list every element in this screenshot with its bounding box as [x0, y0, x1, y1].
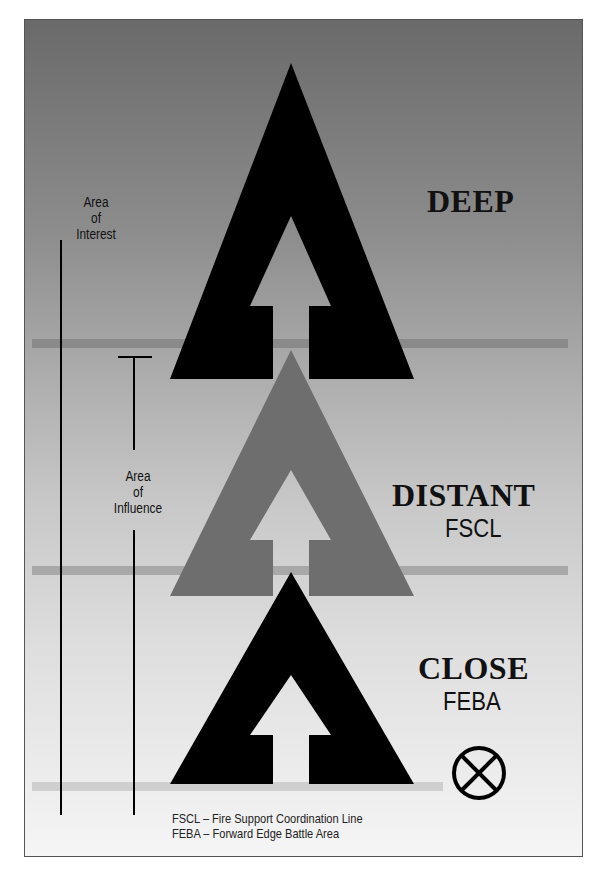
label-line: Area — [62, 194, 130, 210]
legend-item-feba: FEBA – Forward Edge Battle Area — [172, 826, 363, 841]
zone-title-close: CLOSE — [418, 650, 529, 687]
label-line: Area — [104, 468, 172, 484]
fscl-line — [32, 566, 568, 575]
zone-subtitle-feba: FEBA — [443, 686, 501, 717]
deep-boundary-line — [32, 339, 568, 348]
zone-title-deep: DEEP — [427, 183, 514, 220]
zone-subtitle-fscl: FSCL — [445, 513, 501, 544]
area-of-influence-label: Area of Influence — [104, 468, 172, 516]
area-of-interest-label: Area of Interest — [62, 194, 130, 242]
close-arrow-icon — [170, 572, 414, 784]
distant-arrow-icon — [170, 350, 414, 596]
label-line: Interest — [62, 226, 130, 242]
zone-title-distant: DISTANT — [392, 477, 535, 514]
legend-item-fscl: FSCL – Fire Support Coordination Line — [172, 811, 363, 826]
circle-x-icon — [454, 748, 504, 798]
label-line: of — [104, 484, 172, 500]
zones-graphic — [0, 0, 598, 885]
label-line: of — [62, 210, 130, 226]
label-line: Influence — [104, 500, 172, 516]
deep-arrow-icon — [170, 63, 414, 379]
legend: FSCL – Fire Support Coordination Line FE… — [172, 811, 363, 841]
